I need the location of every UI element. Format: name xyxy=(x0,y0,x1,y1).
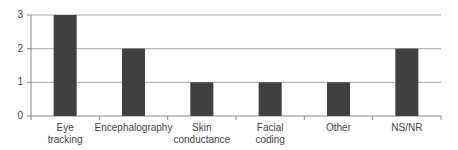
y-tick-label: 3 xyxy=(9,9,23,20)
x-category-label-line: coding xyxy=(230,134,310,146)
y-tick-label: 2 xyxy=(9,43,23,54)
bar xyxy=(395,49,418,116)
y-tick-label: 0 xyxy=(9,110,23,121)
x-category-label-line: NS/NR xyxy=(367,122,447,134)
bar-chart: 0123EyetrackingEncephalographySkinconduc… xyxy=(0,0,458,150)
y-tick-label: 1 xyxy=(9,76,23,87)
x-category-label: NS/NR xyxy=(367,122,447,134)
bar xyxy=(327,82,350,116)
bar xyxy=(259,82,282,116)
bar xyxy=(54,15,77,116)
bar xyxy=(122,49,145,116)
bar xyxy=(190,82,213,116)
x-category-label-line: tracking xyxy=(25,134,105,146)
